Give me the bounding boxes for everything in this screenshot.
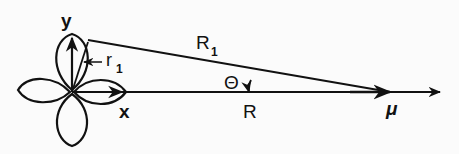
y-axis-label: y: [61, 10, 72, 31]
orbital-geometry-diagram: y x r 1 R 1 Θ R μ: [0, 0, 459, 154]
R-label: R: [243, 101, 257, 122]
R1-subscript: 1: [211, 45, 218, 59]
r1-subscript: 1: [116, 62, 123, 76]
r1-label: r: [106, 50, 112, 70]
R1-line: [88, 40, 390, 92]
lobe-left: [18, 79, 70, 102]
diagram-svg: y x r 1 R 1 Θ R μ: [0, 0, 459, 154]
x-axis-label: x: [119, 101, 130, 122]
mu-label: μ: [385, 98, 398, 119]
lobe-down: [57, 94, 87, 146]
theta-label: Θ: [224, 72, 239, 93]
theta-arc: [249, 80, 251, 92]
R1-label: R: [196, 32, 210, 53]
